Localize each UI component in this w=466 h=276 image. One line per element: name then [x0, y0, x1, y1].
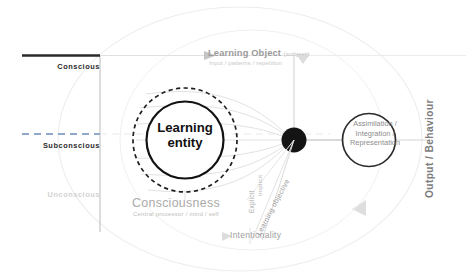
assimilation-line1: Assimilation / [336, 119, 414, 129]
learning-object-title: Learning Object (subject) [208, 48, 309, 58]
consciousness-title: Consciousness [132, 196, 220, 210]
consciousness-subtitle: Central processor / mind / self [133, 211, 219, 217]
learning-object-tag: (subject) [284, 50, 310, 57]
output-behaviour-label: Output / Behaviour [424, 99, 435, 198]
explicit-axis-label: Explicit [248, 190, 255, 213]
diagram-canvas: Conscious Subconscious Unconscious Learn… [0, 0, 466, 276]
implicit-axis-label: Implicit [256, 175, 263, 196]
assimilation-label: Assimilation / Integration / Representat… [336, 119, 414, 148]
learning-entity-line2: entity [137, 135, 233, 150]
assimilation-line3: Representation [336, 138, 414, 148]
loop-arrow-bottom [352, 200, 366, 216]
learning-entity-line1: Learning [137, 120, 233, 135]
learning-entity-label: Learning entity [137, 120, 233, 150]
assimilation-line2: Integration / [336, 129, 414, 139]
learning-object-subtitle: Input / patterns / repetition [209, 60, 282, 66]
learning-object-title-text: Learning Object [208, 48, 281, 58]
level-label-conscious: Conscious [57, 62, 100, 71]
level-label-unconscious: Unconscious [48, 190, 100, 199]
level-label-subconscious: Subconscious [43, 141, 100, 150]
